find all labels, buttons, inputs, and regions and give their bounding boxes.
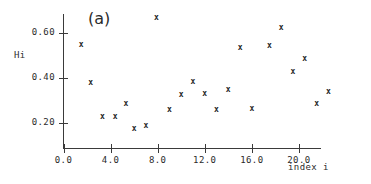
data-point-marker: x xyxy=(142,122,149,129)
data-point-marker: x xyxy=(189,78,196,85)
y-axis-label: Hi xyxy=(14,50,26,60)
x-tick-label: 0.0 xyxy=(55,156,72,165)
plot-area: 0.200.400.60 0.04.08.012.016.020.0 xxxxx… xyxy=(0,0,371,184)
data-point-marker: x xyxy=(325,88,332,95)
data-point-marker: x xyxy=(266,42,273,49)
x-tick-mark xyxy=(205,144,206,153)
x-tick-mark xyxy=(299,144,300,153)
data-point-marker: x xyxy=(213,106,220,113)
data-point-marker: x xyxy=(290,68,297,75)
x-tick-label: 8.0 xyxy=(149,156,166,165)
data-point-marker: x xyxy=(112,113,119,120)
data-point-marker: x xyxy=(78,41,85,48)
y-tick-label: 0.60 xyxy=(32,28,55,37)
y-axis-line xyxy=(63,14,64,149)
x-tick-mark xyxy=(64,144,65,153)
y-tick-label: 0.40 xyxy=(32,73,55,82)
data-point-marker: x xyxy=(278,24,285,31)
x-tick-mark xyxy=(111,144,112,153)
data-point-marker: x xyxy=(166,106,173,113)
data-point-marker: x xyxy=(87,79,94,86)
data-point-marker: x xyxy=(153,14,160,21)
x-axis-label: index i xyxy=(288,162,329,172)
scatter-plot-figure: 0.200.400.60 0.04.08.012.016.020.0 xxxxx… xyxy=(0,0,371,184)
y-tick-mark xyxy=(59,123,68,124)
data-point-marker: x xyxy=(99,113,106,120)
data-point-marker: x xyxy=(122,100,129,107)
x-tick-mark xyxy=(158,144,159,153)
data-point-marker: x xyxy=(201,90,208,97)
data-point-marker: x xyxy=(131,125,138,132)
y-tick-mark xyxy=(59,33,68,34)
y-tick-mark xyxy=(59,78,68,79)
data-point-marker: x xyxy=(301,55,308,62)
data-point-marker: x xyxy=(237,44,244,51)
x-axis-line xyxy=(63,148,321,149)
data-point-marker: x xyxy=(248,105,255,112)
data-point-marker: x xyxy=(178,91,185,98)
panel-label: (a) xyxy=(88,9,110,28)
data-point-marker: x xyxy=(313,100,320,107)
x-tick-label: 12.0 xyxy=(193,156,216,165)
data-point-marker: x xyxy=(225,86,232,93)
x-tick-label: 4.0 xyxy=(102,156,119,165)
y-tick-label: 0.20 xyxy=(32,118,55,127)
x-tick-mark xyxy=(252,144,253,153)
x-tick-label: 16.0 xyxy=(240,156,263,165)
